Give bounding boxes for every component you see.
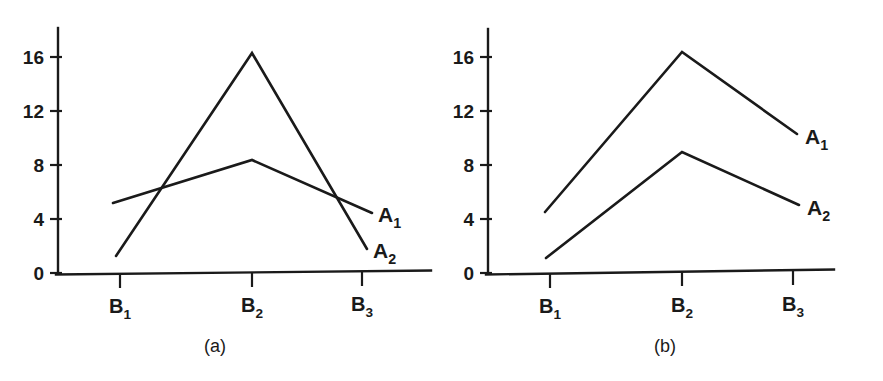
x-axis-label-b1: B1: [109, 295, 131, 322]
x-axis-line: [486, 270, 834, 275]
y-tick-label-0: 0: [33, 263, 44, 284]
series-label-a2: A2: [807, 196, 830, 224]
y-tick-label-4: 4: [33, 209, 44, 230]
y-tick-label-8: 8: [33, 155, 44, 176]
series-label-a1: A1: [378, 203, 401, 231]
panel-a-chart: 16 12 8 4 0 B1 B2 B3 A1 A2 (a): [0, 0, 442, 381]
series-label-a2: A2: [373, 239, 396, 267]
panel-caption-b: (b): [654, 336, 676, 356]
y-tick-label-12: 12: [453, 101, 474, 122]
series-line-a1: [113, 160, 372, 213]
panel-b-chart: 16 12 8 4 0 B1 B2 B3 A1 A2 (b): [441, 0, 883, 381]
panel-b: 16 12 8 4 0 B1 B2 B3 A1 A2 (b): [441, 0, 883, 381]
y-tick-label-0: 0: [463, 263, 474, 284]
panel-caption-a: (a): [204, 336, 226, 356]
series-label-a1: A1: [805, 125, 828, 153]
x-axis-line: [56, 271, 431, 275]
x-axis-label-b3: B3: [782, 293, 804, 320]
panel-a: 16 12 8 4 0 B1 B2 B3 A1 A2 (a): [0, 0, 442, 381]
x-axis-label-b2: B2: [671, 294, 693, 321]
series-line-a2: [116, 53, 367, 256]
y-tick-label-12: 12: [23, 101, 44, 122]
y-tick-label-4: 4: [463, 209, 474, 230]
interaction-plots-figure: 16 12 8 4 0 B1 B2 B3 A1 A2 (a): [0, 0, 883, 381]
y-tick-label-16: 16: [453, 47, 474, 68]
x-axis-label-b3: B3: [351, 293, 373, 320]
y-tick-label-16: 16: [23, 47, 44, 68]
x-axis-label-b2: B2: [241, 294, 263, 321]
y-tick-label-8: 8: [463, 155, 474, 176]
x-axis-label-b1: B1: [539, 295, 561, 322]
